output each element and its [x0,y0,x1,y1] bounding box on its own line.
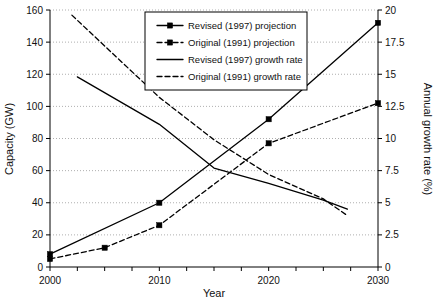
data-point-marker [102,245,107,250]
x-tick-label: 2000 [39,275,62,286]
y-tick-label: 100 [26,101,43,112]
data-point-marker [47,252,52,257]
y-tick-label: 0 [37,262,43,273]
y2-tick-label: 12.5 [385,101,405,112]
data-point-marker [157,200,162,205]
y2-axis-title: Annual growth rate (%) [422,83,433,196]
y-tick-label: 120 [26,69,43,80]
data-point-marker [157,223,162,228]
y-tick-label: 40 [32,197,44,208]
data-point-marker [266,141,271,146]
y2-tick-label: 5 [385,197,391,208]
x-tick-label: 2020 [258,275,281,286]
y2-tick-label: 15 [385,69,397,80]
chart-container: 2000201020202030 020406080100120140160 0… [0,0,433,302]
y2-tick-label: 20 [385,5,397,16]
legend-label: Original (1991) projection [188,37,295,48]
y-tick-label: 160 [26,5,43,16]
x-tick-label: 2010 [148,275,171,286]
dual-axis-line-chart: 2000201020202030 020406080100120140160 0… [0,0,433,302]
data-point-marker [375,101,380,106]
x-tick-label: 2030 [367,275,390,286]
legend-swatch-marker [167,23,172,28]
legend-label: Revised (1997) growth rate [188,54,303,65]
data-point-marker [375,20,380,25]
y2-tick-label: 7.5 [385,165,399,176]
legend-label: Revised (1997) projection [188,20,296,31]
chart-legend: Revised (1997) projectionOriginal (1991)… [145,12,307,90]
y2-tick-label: 2.5 [385,229,399,240]
data-point-marker [47,256,52,261]
y-tick-label: 60 [32,165,44,176]
data-point-marker [266,117,271,122]
y-tick-label: 20 [32,229,44,240]
y2-tick-label: 10 [385,133,397,144]
y-tick-label: 140 [26,37,43,48]
legend-swatch-marker [167,40,172,45]
y2-tick-label: 0 [385,262,391,273]
x-axis-title: Year [203,287,226,299]
y2-tick-label: 17.5 [385,37,405,48]
y-tick-label: 80 [32,133,44,144]
legend-label: Original (1991) growth rate [188,71,301,82]
y-axis-title: Capacity (GW) [3,103,15,175]
